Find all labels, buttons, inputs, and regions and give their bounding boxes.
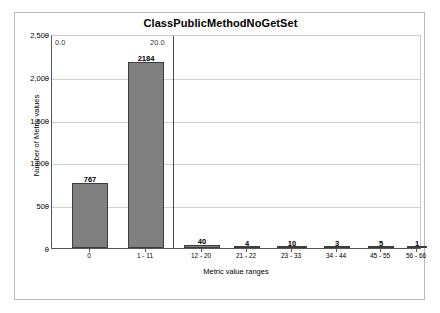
bar-value-45-55: 5 bbox=[379, 239, 383, 248]
plot-area: 0.0 20.0 767 2184 40 4 10 3 5 1 2 bbox=[51, 35, 421, 249]
x-axis: 0 1 - 11 12 - 20 21 - 22 23 - 33 34 - 44… bbox=[51, 252, 421, 264]
range-divider-line bbox=[173, 36, 174, 248]
y-tick-mark-1000 bbox=[46, 163, 49, 164]
x-tick-label-45-55: 45 - 55 bbox=[370, 252, 390, 259]
annotation-upper-bound: 20.0 bbox=[150, 38, 165, 47]
y-tick-mark-500 bbox=[46, 206, 49, 207]
bar-value-1-11: 2184 bbox=[138, 54, 155, 63]
x-tick-label-0: 0 bbox=[87, 252, 91, 259]
y-tick-mark-2500 bbox=[46, 35, 49, 36]
gridline-1000 bbox=[52, 164, 420, 165]
bar-value-56-66: 1 bbox=[415, 239, 419, 248]
bar-value-23-33: 10 bbox=[288, 239, 296, 248]
gridline-2000 bbox=[52, 79, 420, 80]
annotation-lower-bound: 0.0 bbox=[55, 38, 65, 47]
x-tick-label-56-66: 56 - 66 bbox=[406, 252, 426, 259]
y-tick-mark-0 bbox=[46, 249, 49, 250]
gridline-1500 bbox=[52, 122, 420, 123]
bar-1-11[interactable] bbox=[128, 62, 164, 248]
chart-frame: ClassPublicMethodNoGetSet Number of Metr… bbox=[14, 12, 425, 300]
bar-0[interactable] bbox=[72, 183, 108, 248]
bar-value-34-44: 3 bbox=[335, 239, 339, 248]
y-axis-title: Number of Metric values bbox=[32, 71, 41, 201]
x-tick-label-23-33: 23 - 33 bbox=[281, 252, 301, 259]
y-tick-mark-2000 bbox=[46, 78, 49, 79]
x-tick-label-34-44: 34 - 44 bbox=[326, 252, 346, 259]
y-tick-mark-1500 bbox=[46, 121, 49, 122]
x-tick-label-12-20: 12 - 20 bbox=[191, 252, 211, 259]
y-axis: Number of Metric values 0 500 1,000 1,50… bbox=[23, 35, 49, 249]
bar-value-21-22: 4 bbox=[245, 239, 249, 248]
x-tick-label-21-22: 21 - 22 bbox=[236, 252, 256, 259]
bar-value-12-20: 40 bbox=[198, 237, 206, 246]
chart-title: ClassPublicMethodNoGetSet bbox=[15, 17, 426, 29]
x-tick-label-1-11: 1 - 11 bbox=[137, 252, 153, 259]
bar-value-0: 767 bbox=[84, 175, 97, 184]
x-axis-title: Metric value ranges bbox=[51, 267, 421, 276]
